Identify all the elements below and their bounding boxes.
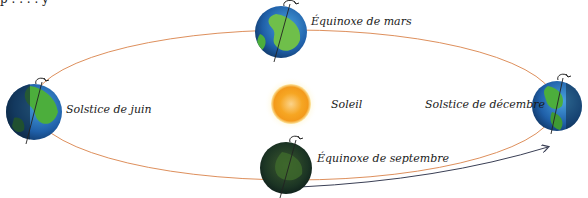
rotation-icon bbox=[290, 136, 303, 142]
label-equinoxe-mars: Équinoxe de mars bbox=[311, 16, 412, 28]
earth-equinoxe-septembre bbox=[260, 136, 312, 198]
label-equinoxe-septembre: Équinoxe de septembre bbox=[317, 153, 449, 165]
rotation-icon bbox=[558, 74, 571, 80]
rotation-icon bbox=[284, 0, 299, 6]
label-solstice-decembre: Solstice de décembre bbox=[425, 99, 545, 111]
sun-icon bbox=[271, 84, 311, 124]
rotation-icon bbox=[36, 78, 49, 84]
label-soleil: Soleil bbox=[331, 99, 362, 111]
earth-equinoxe-mars bbox=[255, 0, 307, 62]
sun bbox=[264, 77, 318, 131]
label-solstice-juin: Solstice de juin bbox=[66, 104, 152, 116]
earth-solstice-juin bbox=[0, 78, 62, 150]
